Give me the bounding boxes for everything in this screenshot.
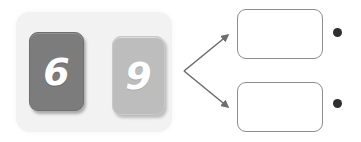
outcome-box-top[interactable] <box>237 9 323 59</box>
keyboard-panel: 6 9 <box>16 12 172 132</box>
arrow-to-bottom-box <box>184 71 228 107</box>
outcome-box-bottom[interactable] <box>237 82 323 132</box>
bullet-dot-top <box>333 28 342 37</box>
arrow-to-top-box <box>184 35 228 71</box>
key-6[interactable]: 6 <box>29 32 84 111</box>
key-9[interactable]: 9 <box>112 36 165 115</box>
key-6-label: 6 <box>43 53 69 91</box>
diagram-canvas: 6 9 <box>0 0 361 142</box>
key-9-label: 9 <box>125 57 151 95</box>
bullet-dot-bottom <box>333 99 342 108</box>
